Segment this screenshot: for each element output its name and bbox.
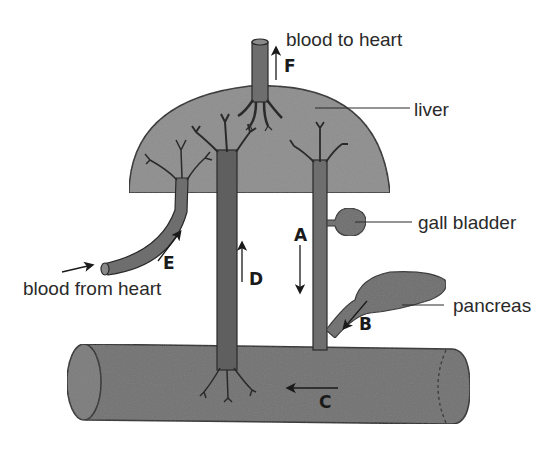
label-gall-bladder: gall bladder xyxy=(418,213,516,232)
letter-d: D xyxy=(249,271,263,288)
label-blood-from-heart: blood from heart xyxy=(23,279,161,298)
intestine xyxy=(67,344,470,424)
letter-a: A xyxy=(294,227,307,244)
label-blood-to-heart: blood to heart xyxy=(286,30,402,49)
letter-f: F xyxy=(284,58,296,75)
letter-c: C xyxy=(319,394,331,411)
letter-e: E xyxy=(163,255,175,272)
letter-b: B xyxy=(359,316,372,333)
arrow-blood-in-icon xyxy=(62,265,92,272)
label-liver: liver xyxy=(414,100,449,119)
label-pancreas: pancreas xyxy=(453,296,531,315)
